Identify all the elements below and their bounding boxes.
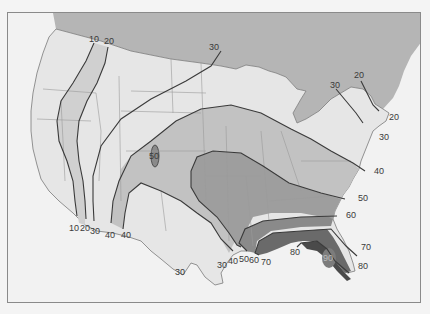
label-nw-10: 10	[89, 34, 99, 44]
label-sw-10: 10	[69, 223, 79, 233]
label-east-50: 50	[358, 193, 368, 203]
label-ne-30-top: 30	[330, 80, 340, 90]
label-sw-30: 30	[90, 226, 100, 236]
label-fl-peak-90: 90	[323, 253, 333, 263]
label-gulf-80: 80	[290, 247, 300, 257]
label-gulf-60: 60	[249, 255, 259, 265]
label-north-30: 30	[209, 42, 219, 52]
label-sw-20: 20	[80, 223, 90, 233]
label-gulf-50: 50	[239, 254, 249, 264]
label-east-60: 60	[346, 210, 356, 220]
label-co-peak-50: 50	[149, 151, 159, 161]
label-gulf-40: 40	[228, 256, 238, 266]
us-isoline-map: 10 20 30 20 30 20 30 40 50 60 70 80 80 9…	[8, 13, 421, 303]
label-gulf-70: 70	[261, 257, 271, 267]
label-nw-20: 20	[104, 36, 114, 46]
label-ne-20-coast: 20	[389, 112, 399, 122]
label-sw-40a: 40	[105, 230, 115, 240]
label-fl-70: 70	[361, 242, 371, 252]
label-east-40: 40	[374, 166, 384, 176]
label-fl-80: 80	[358, 261, 368, 271]
label-ne-20-top: 20	[354, 70, 364, 80]
label-gulf-30: 30	[217, 260, 227, 270]
label-sw-40b: 40	[121, 230, 131, 240]
label-tx-30: 30	[175, 267, 185, 277]
label-ne-30-coast: 30	[379, 132, 389, 142]
map-frame: 10 20 30 20 30 20 30 40 50 60 70 80 80 9…	[7, 12, 421, 303]
